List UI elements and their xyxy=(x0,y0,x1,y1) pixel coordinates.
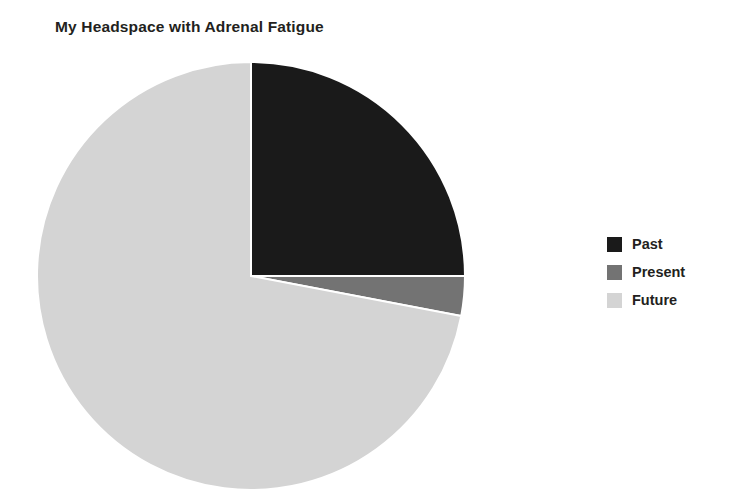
legend-label-present: Present xyxy=(632,265,685,280)
pie-chart-area xyxy=(30,55,475,500)
legend-label-past: Past xyxy=(632,237,663,252)
pie-slices xyxy=(37,62,465,490)
legend-item-present[interactable]: Present xyxy=(607,258,737,286)
legend-label-future: Future xyxy=(632,293,677,308)
chart-figure: My Headspace with Adrenal Fatigue Past P… xyxy=(0,0,745,503)
legend-item-future[interactable]: Future xyxy=(607,286,737,314)
pie-chart-svg xyxy=(30,55,475,500)
legend-swatch-future-icon xyxy=(607,293,622,308)
chart-title: My Headspace with Adrenal Fatigue xyxy=(55,18,324,36)
legend-item-past[interactable]: Past xyxy=(607,230,737,258)
chart-legend: Past Present Future xyxy=(607,230,737,314)
legend-swatch-past-icon xyxy=(607,237,622,252)
pie-slice-past[interactable] xyxy=(251,62,465,276)
legend-swatch-present-icon xyxy=(607,265,622,280)
